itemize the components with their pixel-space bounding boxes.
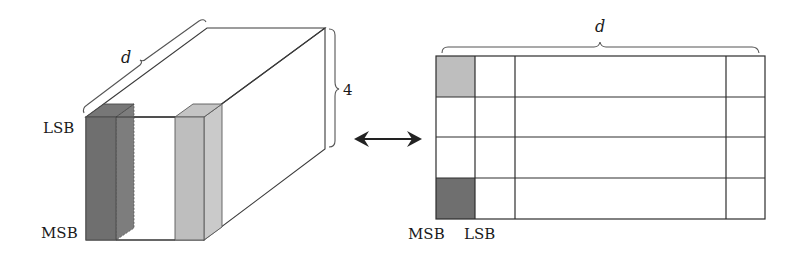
- light-bar-side: [204, 104, 222, 240]
- dark-bar-side: [116, 104, 134, 240]
- block-3d: d 4 LSB MSB: [41, 20, 353, 242]
- grid-cell-lsb-shaded: [436, 56, 475, 97]
- light-bar: [175, 104, 222, 240]
- double-arrow-icon: [354, 131, 422, 147]
- height-brace: [329, 29, 339, 147]
- right-msb-label: MSB: [408, 225, 445, 243]
- right-lsb-label: LSB: [464, 225, 495, 243]
- left-msb-label: MSB: [41, 224, 78, 242]
- bit-layout-diagram: d 4 LSB MSB d MSB LSB: [0, 0, 805, 258]
- dark-bar: [86, 104, 134, 240]
- width-label: d: [595, 17, 605, 36]
- grid-2d: d MSB LSB: [408, 17, 765, 243]
- depth-brace: [83, 20, 206, 113]
- grid-cell-msb-shaded: [436, 178, 475, 219]
- height-label: 4: [343, 81, 353, 99]
- light-bar-front: [175, 117, 204, 240]
- left-lsb-label: LSB: [43, 119, 74, 137]
- depth-label: d: [121, 48, 131, 67]
- dark-bar-front: [86, 117, 116, 240]
- width-brace: [442, 42, 759, 53]
